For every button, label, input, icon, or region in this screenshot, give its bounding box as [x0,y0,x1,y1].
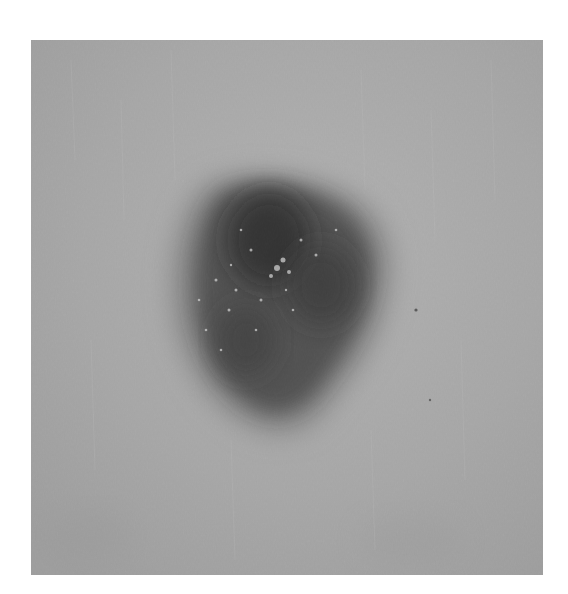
skin-lesion-photo [31,40,543,575]
lesion-illustration [31,40,543,575]
